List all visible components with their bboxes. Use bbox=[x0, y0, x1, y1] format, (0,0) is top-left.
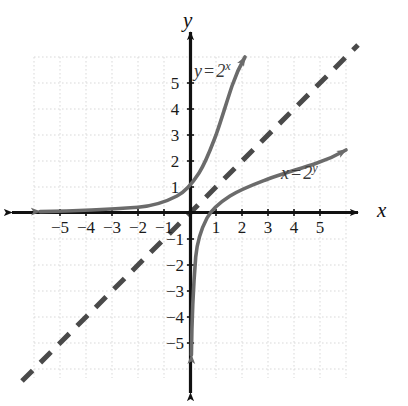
x-tick-label: −3 bbox=[100, 219, 124, 236]
equation-label-exponential: y=2x bbox=[194, 62, 231, 80]
x-tick-label: −4 bbox=[74, 219, 98, 236]
equation-base: 2 bbox=[216, 61, 225, 81]
y-tick-label: −5 bbox=[156, 335, 184, 352]
x-axis-label: x bbox=[377, 200, 386, 221]
graph-figure: x y −5 −4 −3 −2 −1 1 2 3 4 5 1 2 3 4 5 −… bbox=[0, 0, 408, 406]
y-tick-label: 4 bbox=[166, 101, 184, 118]
x-tick-label: 3 bbox=[258, 219, 278, 236]
equation-exponent: x bbox=[225, 59, 230, 73]
x-tick-label: 5 bbox=[310, 219, 330, 236]
curve-logarithmic bbox=[191, 150, 346, 355]
x-tick-label: 1 bbox=[206, 219, 226, 236]
y-tick-label: 3 bbox=[166, 127, 184, 144]
equation-lhs: x bbox=[281, 163, 289, 183]
equation-exponent: y bbox=[312, 161, 317, 175]
x-tick-label: −5 bbox=[48, 219, 72, 236]
equation-base: 2 bbox=[303, 163, 312, 183]
y-tick-label: −1 bbox=[156, 231, 184, 248]
y-tick-label: 5 bbox=[166, 75, 184, 92]
y-axis-label: y bbox=[183, 10, 192, 31]
y-tick-label: −3 bbox=[156, 283, 184, 300]
y-tick-label: 1 bbox=[166, 179, 184, 196]
y-tick-label: −2 bbox=[156, 257, 184, 274]
x-tick-label: 4 bbox=[284, 219, 304, 236]
equation-label-logarithmic: x=2y bbox=[281, 164, 318, 182]
equation-lhs: y bbox=[194, 61, 202, 81]
y-tick-label: 2 bbox=[166, 153, 184, 170]
equation-equals: = bbox=[289, 163, 303, 183]
x-tick-label: −2 bbox=[126, 219, 150, 236]
x-tick-label: 2 bbox=[232, 219, 252, 236]
equation-equals: = bbox=[202, 61, 216, 81]
y-tick-label: −4 bbox=[156, 309, 184, 326]
